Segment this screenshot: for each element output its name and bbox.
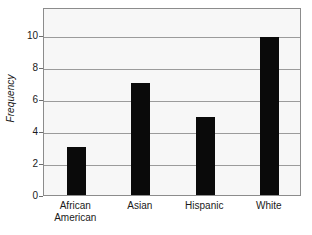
x-axis-label-line: Hispanic [169, 200, 239, 212]
y-axis-tick-label: 2 [18, 159, 38, 169]
y-axis-tick-mark [39, 196, 43, 197]
y-axis-tick-labels: 0246810 [18, 0, 38, 200]
x-axis-category-label: Asian [105, 200, 175, 212]
bars-group [44, 9, 300, 195]
y-axis-tick-label: 10 [18, 31, 38, 41]
bar [131, 83, 150, 195]
plot-area [43, 8, 301, 196]
x-axis-category-label: White [234, 200, 304, 212]
y-axis-tick-label: 8 [18, 63, 38, 73]
x-axis-label-line: White [234, 200, 304, 212]
y-axis-title-text: Frequency [5, 74, 16, 122]
bar [196, 117, 215, 195]
y-axis-title: Frequency [0, 0, 20, 196]
x-axis-category-label: Hispanic [169, 200, 239, 212]
y-axis-tick-label: 0 [18, 191, 38, 201]
x-axis-label-line: American [40, 212, 110, 224]
y-axis-tick-label: 4 [18, 127, 38, 137]
x-axis-category-labels: AfricanAmericanAsianHispanicWhite [43, 198, 301, 235]
bar [67, 147, 86, 195]
bar [260, 37, 279, 195]
x-axis-label-line: Asian [105, 200, 175, 212]
x-axis-category-label: AfricanAmerican [40, 200, 110, 224]
bar-chart: Frequency 0246810 AfricanAmericanAsianHi… [0, 0, 312, 235]
y-axis-tick-label: 6 [18, 95, 38, 105]
x-axis-label-line: African [40, 200, 110, 212]
